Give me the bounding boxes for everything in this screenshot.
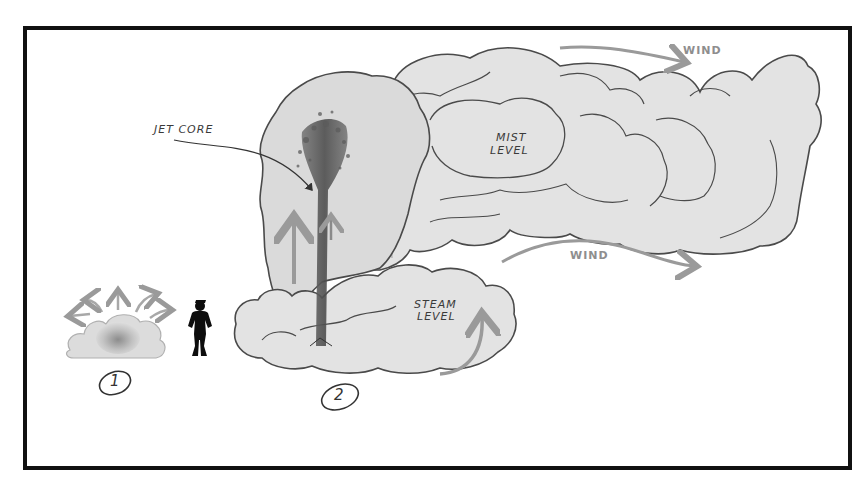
mist-level-label-line1: MIST	[496, 132, 526, 143]
geyser-illustration	[0, 0, 867, 488]
wind-label-middle: WIND	[570, 250, 609, 261]
mist-level-label-line2: LEVEL	[490, 145, 529, 156]
wind-arrow-top	[560, 47, 684, 62]
steam-level-label-line2: LEVEL	[417, 311, 456, 322]
human-silhouette	[188, 300, 212, 356]
mist-cloud	[358, 48, 821, 270]
stage-1-number: 1	[110, 374, 121, 389]
stage-2-number: 2	[334, 388, 345, 403]
stage-1-burst	[67, 292, 170, 358]
steam-level-label-line1: STEAM	[414, 299, 457, 310]
wind-label-top: WIND	[683, 45, 722, 56]
jet-core-label: JET CORE	[154, 124, 213, 135]
